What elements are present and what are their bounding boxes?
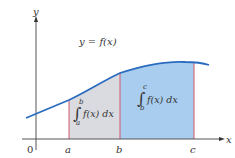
point-a-label: a (65, 144, 71, 155)
integral-ab-body: f(x) dx (82, 108, 114, 119)
point-b-label: b (116, 144, 122, 155)
integral-bc-upper: c (143, 83, 147, 91)
y-axis-label: y (32, 6, 39, 17)
point-c-label: c (190, 144, 196, 155)
x-axis-arrow-icon (219, 137, 225, 141)
curve-label: y = f(x) (78, 36, 117, 47)
integral-bc-body: f(x) dx (146, 94, 178, 105)
integral-ab-lower: a (76, 119, 80, 127)
integral-diagram: y x 0 a b c y = f(x) ∫ b a f(x) dx ∫ c b… (0, 0, 235, 158)
integral-bc-lower: b (140, 104, 145, 112)
origin-label: 0 (27, 144, 33, 155)
x-axis-label: x (226, 134, 232, 145)
integral-ab-upper: b (79, 98, 84, 106)
